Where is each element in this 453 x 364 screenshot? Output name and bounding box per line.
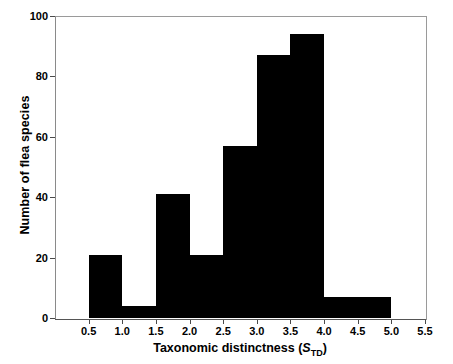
histogram-figure: Number of flea species 020406080100 0.51… — [0, 0, 453, 364]
y-tick-label: 0 — [22, 313, 48, 323]
x-axis-title-subscript: TD — [311, 348, 323, 358]
x-tick-label: 5.5 — [405, 325, 445, 337]
y-tick-label: 80 — [22, 71, 48, 81]
histogram-bar — [156, 194, 190, 318]
histogram-bars — [55, 16, 425, 318]
x-axis-title: Taxonomic distinctness (STD) — [55, 341, 425, 358]
x-axis-title-symbol: S — [302, 341, 310, 355]
y-tick-label: 20 — [22, 253, 48, 263]
histogram-bar — [223, 146, 257, 318]
x-axis-title-tail: ) — [323, 341, 327, 355]
y-tick-label: 60 — [22, 132, 48, 142]
histogram-bar — [324, 297, 358, 318]
histogram-bar — [257, 55, 291, 318]
histogram-bar — [290, 34, 324, 318]
y-tick-label: 100 — [22, 11, 48, 21]
x-axis-title-main: Taxonomic distinctness ( — [153, 341, 302, 355]
histogram-bar — [122, 306, 156, 318]
histogram-bar — [89, 255, 123, 318]
y-tick-label: 40 — [22, 192, 48, 202]
histogram-bar — [190, 255, 224, 318]
y-tick-label-group: 020406080100 — [18, 0, 48, 364]
histogram-bar — [358, 297, 392, 318]
